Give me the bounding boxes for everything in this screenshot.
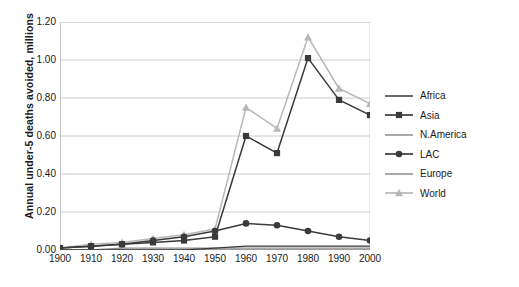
legend-swatch-circle-icon [384, 147, 414, 161]
legend-item-europe[interactable]: Europe [384, 164, 516, 184]
legend-label: Europe [420, 168, 452, 179]
data-point [274, 222, 281, 229]
chart-figure: Annual under-5 deaths avoided, millions … [0, 0, 519, 287]
y-tick-label: 0.80 [22, 92, 56, 103]
legend-label: N.America [420, 129, 467, 140]
legend-swatch-line-icon [384, 89, 414, 103]
legend-label: World [420, 188, 446, 199]
data-point [243, 220, 250, 227]
data-point [88, 243, 94, 249]
data-point [367, 112, 370, 118]
data-point [304, 33, 312, 40]
data-point [335, 85, 343, 92]
y-tick-label: 0.20 [22, 206, 56, 217]
legend-item-asia[interactable]: Asia [384, 106, 516, 126]
legend-item-africa[interactable]: Africa [384, 86, 516, 106]
y-tick-label: 1.00 [22, 54, 56, 65]
legend-marker [396, 112, 402, 118]
data-point [181, 237, 187, 243]
legend-label: LAC [420, 149, 439, 160]
x-tick-label: 1900 [49, 253, 71, 264]
series-asia [60, 55, 370, 250]
legend-swatch-line-icon [384, 128, 414, 142]
x-tick-label: 1940 [173, 253, 195, 264]
chart-legend: AfricaAsiaN.AmericaLACEuropeWorld [384, 86, 516, 203]
plot-area [60, 22, 370, 250]
x-tick-label: 1970 [266, 253, 288, 264]
x-tick-label: 1920 [111, 253, 133, 264]
data-point [150, 239, 156, 245]
chart-svg [60, 22, 370, 250]
legend-label: Asia [420, 110, 439, 121]
x-axis-tick-labels: 1900191019201930194019501960197019801990… [60, 253, 370, 269]
legend-item-world[interactable]: World [384, 184, 516, 204]
x-tick-label: 1910 [80, 253, 102, 264]
legend-item-namerica[interactable]: N.America [384, 125, 516, 145]
x-tick-label: 2000 [359, 253, 381, 264]
series-world [60, 33, 370, 250]
series-line [60, 58, 370, 248]
data-point [336, 97, 342, 103]
data-point [242, 104, 250, 111]
x-tick-label: 1980 [297, 253, 319, 264]
data-point [60, 245, 63, 250]
legend-swatch-square-icon [384, 108, 414, 122]
series-line [60, 37, 370, 248]
x-tick-label: 1990 [328, 253, 350, 264]
y-axis-tick-labels: 0.000.200.400.600.801.001.20 [18, 22, 56, 250]
data-point [243, 133, 249, 139]
y-tick-label: 1.20 [22, 16, 56, 27]
x-tick-label: 1950 [204, 253, 226, 264]
data-point [305, 228, 312, 235]
y-tick-label: 0.60 [22, 130, 56, 141]
legend-swatch-line-icon [384, 167, 414, 181]
x-tick-label: 1960 [235, 253, 257, 264]
data-point [367, 237, 370, 244]
legend-label: Africa [420, 90, 446, 101]
data-point [212, 234, 218, 240]
y-tick-label: 0.40 [22, 168, 56, 179]
legend-swatch-triangle-icon [384, 186, 414, 200]
legend-marker [396, 151, 403, 158]
legend-item-lac[interactable]: LAC [384, 145, 516, 165]
data-point [274, 150, 280, 156]
x-tick-label: 1930 [142, 253, 164, 264]
data-point [336, 233, 343, 240]
data-point [119, 241, 125, 247]
data-point [273, 124, 281, 131]
data-point [305, 55, 311, 61]
